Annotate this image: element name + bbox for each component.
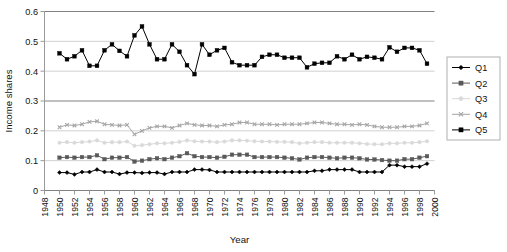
x-tick-label: 1970 bbox=[205, 197, 215, 216]
data-point bbox=[238, 139, 242, 143]
data-point bbox=[253, 63, 257, 67]
series-line bbox=[60, 164, 428, 175]
data-point bbox=[178, 170, 182, 174]
data-point bbox=[155, 156, 159, 160]
data-point bbox=[133, 144, 137, 148]
x-tick-label: 1998 bbox=[415, 197, 425, 216]
data-point bbox=[275, 140, 279, 144]
data-point bbox=[200, 42, 204, 46]
data-point bbox=[125, 155, 129, 159]
data-point bbox=[253, 139, 257, 143]
data-point bbox=[245, 63, 249, 67]
data-point bbox=[290, 56, 294, 60]
data-point bbox=[193, 72, 197, 76]
data-point bbox=[395, 163, 399, 167]
data-point bbox=[208, 53, 212, 57]
data-point bbox=[403, 165, 407, 169]
x-tick-label: 1990 bbox=[355, 197, 365, 216]
data-point bbox=[365, 158, 369, 162]
data-point bbox=[395, 142, 399, 146]
data-point bbox=[350, 168, 354, 172]
data-point bbox=[73, 156, 77, 160]
data-point bbox=[253, 155, 257, 159]
x-tick-label: 1974 bbox=[235, 197, 245, 216]
data-point bbox=[418, 48, 422, 52]
gridlines bbox=[45, 12, 435, 191]
y-tick-label: 0.1 bbox=[25, 156, 38, 166]
data-point bbox=[185, 139, 189, 143]
data-point bbox=[238, 170, 242, 174]
data-point bbox=[365, 170, 369, 174]
data-point bbox=[215, 170, 219, 174]
data-point bbox=[425, 139, 429, 143]
data-point bbox=[110, 42, 114, 46]
data-point bbox=[283, 170, 287, 174]
data-point bbox=[223, 46, 227, 50]
x-tick-label: 1986 bbox=[325, 197, 335, 216]
data-point bbox=[125, 171, 129, 175]
data-point bbox=[459, 97, 463, 101]
data-point bbox=[268, 140, 272, 144]
data-point bbox=[230, 153, 234, 157]
data-point bbox=[73, 172, 77, 176]
data-point bbox=[380, 142, 384, 146]
data-point bbox=[410, 46, 414, 50]
data-point bbox=[373, 158, 377, 162]
data-point bbox=[103, 170, 107, 174]
data-point bbox=[80, 140, 84, 144]
data-point bbox=[140, 25, 144, 29]
legend-label: Q3 bbox=[475, 94, 487, 104]
data-point bbox=[73, 54, 77, 58]
series-q4 bbox=[58, 119, 429, 136]
x-axis-title: Year bbox=[230, 234, 250, 245]
data-point bbox=[185, 63, 189, 67]
data-point bbox=[425, 162, 429, 166]
x-tick-label: 1948 bbox=[40, 197, 50, 216]
data-point bbox=[260, 170, 264, 174]
series-q5 bbox=[58, 25, 429, 77]
x-tick-label: 1982 bbox=[295, 197, 305, 216]
data-point bbox=[283, 56, 287, 60]
data-point bbox=[358, 156, 362, 160]
data-point bbox=[313, 62, 317, 66]
data-point bbox=[305, 170, 309, 174]
data-point bbox=[230, 60, 234, 64]
series-line bbox=[60, 26, 428, 74]
data-point bbox=[335, 168, 339, 172]
income-shares-chart: 00.10.20.30.40.50.6194819501952195419561… bbox=[0, 0, 507, 252]
data-point bbox=[200, 140, 204, 144]
data-point bbox=[283, 156, 287, 160]
data-point bbox=[459, 81, 463, 85]
data-point bbox=[58, 171, 62, 175]
data-point bbox=[298, 56, 302, 60]
data-point bbox=[380, 158, 384, 162]
data-point bbox=[260, 155, 264, 159]
data-point bbox=[148, 142, 152, 146]
data-point bbox=[215, 140, 219, 144]
data-point bbox=[328, 141, 332, 145]
data-point bbox=[65, 57, 69, 61]
data-point bbox=[350, 141, 354, 145]
y-tick-label: 0.3 bbox=[25, 96, 38, 106]
chart-canvas: 00.10.20.30.40.50.6194819501952195419561… bbox=[0, 0, 507, 252]
data-point bbox=[425, 62, 429, 66]
data-point bbox=[418, 156, 422, 160]
data-point bbox=[388, 45, 392, 49]
data-point bbox=[163, 142, 167, 146]
data-point bbox=[350, 156, 354, 160]
data-point bbox=[133, 133, 137, 137]
y-tick-label: 0 bbox=[33, 186, 38, 196]
x-tick-label: 1952 bbox=[70, 197, 80, 216]
data-point bbox=[118, 49, 122, 53]
y-tick-label: 0.4 bbox=[25, 67, 38, 77]
data-point bbox=[373, 56, 377, 60]
x-tick-label: 1950 bbox=[55, 197, 65, 216]
data-point bbox=[403, 157, 407, 161]
data-point bbox=[88, 140, 92, 144]
data-point bbox=[335, 156, 339, 160]
data-point bbox=[155, 57, 159, 61]
data-point bbox=[343, 57, 347, 61]
data-point bbox=[283, 140, 287, 144]
data-point bbox=[290, 140, 294, 144]
data-point bbox=[88, 170, 92, 174]
